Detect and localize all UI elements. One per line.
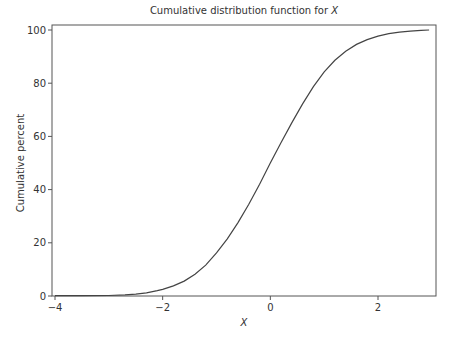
y-tick-label: 20 bbox=[33, 237, 46, 248]
y-axis: 020406080100 bbox=[27, 25, 52, 302]
y-tick-label: 100 bbox=[27, 25, 46, 36]
plot-frame bbox=[52, 25, 436, 296]
y-tick-label: 80 bbox=[33, 78, 46, 89]
chart-title: Cumulative distribution function for X bbox=[150, 5, 339, 16]
y-tick-label: 60 bbox=[33, 131, 46, 142]
x-tick-label: 2 bbox=[375, 302, 381, 313]
y-tick-label: 0 bbox=[40, 291, 46, 302]
y-axis-label: Cumulative percent bbox=[15, 114, 26, 213]
x-tick-label: 0 bbox=[267, 302, 273, 313]
cdf-line bbox=[55, 30, 429, 296]
x-tick-label: −4 bbox=[48, 302, 63, 313]
x-tick-label: −2 bbox=[155, 302, 170, 313]
x-axis-label: X bbox=[240, 317, 249, 328]
x-axis: −4−202 bbox=[48, 296, 382, 313]
cdf-chart: Cumulative distribution function for X 0… bbox=[0, 0, 452, 344]
y-tick-label: 40 bbox=[33, 184, 46, 195]
